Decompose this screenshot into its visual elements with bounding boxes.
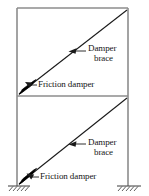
- label-damper-brace-lower-line2: brace: [88, 148, 119, 158]
- label-damper-brace-upper-line1: Damper: [88, 43, 116, 53]
- label-friction-damper-lower: Friction damper: [40, 172, 96, 182]
- friction-damper-upper: [19, 80, 36, 95]
- label-damper-brace-upper-line2: brace: [88, 54, 119, 64]
- label-damper-brace-lower-line1: Damper: [88, 137, 116, 147]
- structural-frame-diagram: Damper brace Damper brace Friction dampe…: [0, 0, 149, 196]
- label-damper-brace-lower: Damper brace: [88, 138, 124, 157]
- ground-support-right: [117, 186, 141, 191]
- label-damper-brace-upper: Damper brace: [88, 44, 124, 63]
- friction-damper-lower: [19, 168, 36, 184]
- frame-members: [17, 8, 128, 186]
- ground-support-left: [8, 186, 30, 191]
- frame-drawing: [0, 0, 149, 196]
- label-friction-damper-upper: Friction damper: [38, 80, 94, 90]
